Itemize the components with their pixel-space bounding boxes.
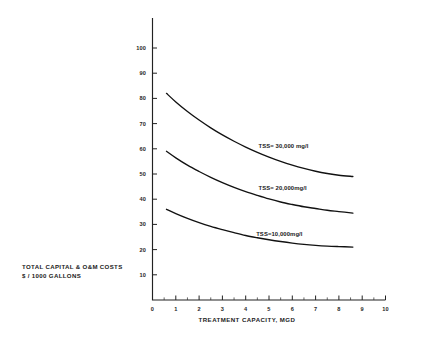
y-tick-label: 50 xyxy=(139,171,146,177)
y-tick-label: 20 xyxy=(139,247,146,253)
y-tick-label: 40 xyxy=(139,196,146,202)
chart-ticks xyxy=(153,48,386,300)
axis-lines xyxy=(153,18,386,300)
x-tick-label: 6 xyxy=(291,306,294,312)
chart-figure: 102030405060708090100012345678910 TSS= 3… xyxy=(0,0,430,358)
y-tick-label: 80 xyxy=(139,95,146,101)
chart-tick-labels: 102030405060708090100012345678910 xyxy=(136,45,389,312)
x-tick-label: 8 xyxy=(337,306,340,312)
x-tick-label: 10 xyxy=(382,306,389,312)
x-tick-label: 7 xyxy=(314,306,317,312)
x-axis-title-text: TREATMENT CAPACITY, MGD xyxy=(199,316,296,323)
y-tick-label: 100 xyxy=(136,45,146,51)
series-line-3 xyxy=(166,209,352,247)
series-line-2 xyxy=(166,151,352,213)
chart-plot-area: 102030405060708090100012345678910 TSS= 3… xyxy=(0,0,430,358)
x-tick-label: 9 xyxy=(361,306,364,312)
y-axis-title-line-1: TOTAL CAPITAL & O&M COSTS xyxy=(22,262,123,271)
y-tick-label: 30 xyxy=(139,221,146,227)
y-tick-label: 70 xyxy=(139,121,146,127)
series-annotation-3: TSS=10,000mg/l xyxy=(256,231,303,237)
series-annotation-1: TSS= 30,000 mg/l xyxy=(259,143,309,149)
y-tick-label: 60 xyxy=(139,146,146,152)
chart-x-axis-title: TREATMENT CAPACITY, MGD xyxy=(199,316,296,323)
y-axis-title-line-2: $ / 1000 GALLONS xyxy=(22,271,123,280)
x-tick-label: 0 xyxy=(151,306,154,312)
y-tick-label: 90 xyxy=(139,70,146,76)
x-tick-label: 2 xyxy=(197,306,200,312)
chart-series-curves xyxy=(166,93,352,247)
x-tick-label: 1 xyxy=(174,306,177,312)
chart-axes xyxy=(153,18,386,300)
x-tick-label: 4 xyxy=(244,306,248,312)
x-tick-label: 5 xyxy=(267,306,270,312)
x-tick-label: 3 xyxy=(221,306,224,312)
series-annotation-2: TSS= 20,000mg/l xyxy=(259,185,307,191)
y-tick-label: 10 xyxy=(139,272,146,278)
chart-series-labels: TSS= 30,000 mg/lTSS= 20,000mg/lTSS=10,00… xyxy=(256,143,308,237)
chart-y-axis-title: TOTAL CAPITAL & O&M COSTS $ / 1000 GALLO… xyxy=(22,262,123,280)
series-line-1 xyxy=(166,93,352,176)
